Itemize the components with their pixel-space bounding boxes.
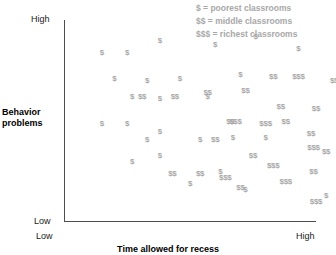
data-point: $$: [282, 116, 290, 125]
data-point: $$$: [292, 72, 304, 81]
data-point: $$: [168, 168, 176, 177]
data-point: $: [238, 70, 242, 79]
data-point: $: [100, 118, 104, 127]
data-point: $: [158, 126, 162, 135]
data-point: $: [100, 48, 104, 57]
plot-area: $$$$$$$$$$$$$$$$$$$$$$$$$$$$$$$$$$$$$$$$…: [64, 20, 316, 221]
data-point: $$: [196, 168, 204, 177]
data-point: $$$: [280, 176, 292, 185]
x-axis-low-label: Low: [36, 231, 53, 241]
x-axis-high-label: High: [296, 231, 315, 241]
data-point: $$$: [267, 160, 279, 169]
scatter-chart: $ = poorest classrooms $$ = middle class…: [0, 0, 336, 255]
data-point: $: [130, 156, 134, 165]
y-axis-title: Behavior problems: [2, 107, 62, 129]
data-point: $: [178, 74, 182, 83]
data-point: $: [264, 132, 268, 141]
data-point: $$: [203, 88, 211, 97]
data-point: $$$: [307, 142, 319, 151]
data-point: $$: [322, 146, 330, 155]
data-point: $$: [236, 182, 244, 191]
data-point: $$$: [229, 116, 241, 125]
data-point: $$: [211, 134, 219, 143]
data-point: $$: [249, 150, 257, 159]
data-point: $: [112, 74, 116, 83]
data-point: $$: [269, 72, 277, 81]
y-axis-high-label: High: [31, 14, 50, 24]
data-point: $: [324, 190, 328, 199]
data-point: $$: [312, 104, 320, 113]
data-point: $$$: [259, 118, 271, 127]
data-point: $$: [241, 86, 249, 95]
x-axis-title: Time allowed for recess: [0, 244, 336, 254]
data-point: $$: [307, 128, 315, 137]
data-point: $$$: [310, 196, 322, 205]
data-point: $: [145, 76, 149, 85]
data-point: $: [158, 150, 162, 159]
data-point: $: [198, 134, 202, 143]
data-point: $$: [138, 92, 146, 101]
data-point: $: [125, 118, 129, 127]
data-point: $: [213, 40, 217, 49]
data-point: $: [158, 36, 162, 45]
legend-item-poorest: $ = poorest classrooms: [196, 2, 336, 15]
data-point: $$$: [219, 172, 231, 181]
data-point: $: [296, 44, 300, 53]
y-axis-low-label: Low: [34, 216, 51, 226]
data-point: $: [130, 92, 134, 101]
data-point: $$: [277, 102, 285, 111]
data-point: $: [125, 48, 129, 57]
x-axis-line: [64, 221, 316, 222]
data-point: $: [158, 94, 162, 103]
data-point: $: [253, 32, 257, 41]
data-point: $: [145, 134, 149, 143]
data-point: $: [188, 178, 192, 187]
data-point: $$: [171, 92, 179, 101]
data-point: $$: [309, 166, 317, 175]
data-point: $$$: [330, 76, 336, 85]
data-point: $: [231, 132, 235, 141]
